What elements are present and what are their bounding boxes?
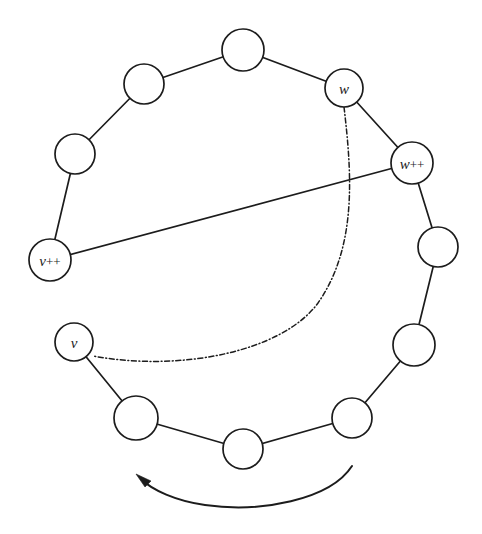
node-label-vpp-plus: ++ [46,254,61,269]
traversal-direction-arrow [136,466,352,507]
graph-canvas: w w++ v++ v [0,0,482,534]
chord-dashdot-path [93,107,350,361]
node-label-w: w [339,81,349,97]
chord-solid-line [50,163,412,260]
chord-vpp-wpp [50,163,412,260]
node-n10[interactable] [55,134,95,174]
cycle-edges [50,50,438,449]
node-n5[interactable] [332,398,372,438]
node-label-wpp: w++ [400,156,425,172]
node-label-wpp-base: w [400,156,410,172]
node-n4[interactable] [393,324,435,366]
node-label-wpp-plus: ++ [410,157,425,172]
cycle-graph-diagram: w w++ v++ v [0,0,482,534]
node-n0[interactable] [222,29,264,71]
node-n6[interactable] [223,429,263,469]
chord-v-w [93,107,350,361]
direction-arrow-arc [141,466,352,507]
node-label-vpp: v++ [39,253,60,269]
node-n3[interactable] [418,227,458,267]
node-label-v: v [71,335,78,351]
node-labels: w w++ v++ v [39,81,424,351]
node-n7[interactable] [114,396,158,440]
node-n11[interactable] [124,64,164,104]
